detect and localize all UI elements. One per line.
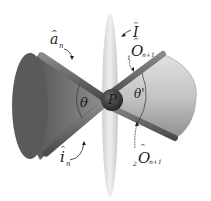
svg-text:n+1: n+1 [142,51,155,58]
svg-text:i: i [60,148,65,166]
vector-label-a-n: ^ a n [50,28,74,60]
point-label: P [107,92,117,107]
svg-text:1: 1 [127,54,131,61]
svg-text:2: 2 [132,160,137,167]
svg-text:n: n [66,160,71,168]
theta-prime-label: θ' [134,87,145,101]
svg-text:n: n [59,42,64,50]
vector-label-i-n: ^ i n [60,141,86,168]
theta-label: θ [80,95,88,110]
svg-text:a: a [50,31,58,47]
dotted-arrow-icon [135,124,137,148]
curved-arrow-icon [70,143,84,160]
cone-scattering-diagram: P θ θ' ^ a n ^ i n ^ I ^ O 1 n+1 ^ O 2 n… [0,0,211,201]
svg-text:n+1: n+1 [149,158,162,165]
